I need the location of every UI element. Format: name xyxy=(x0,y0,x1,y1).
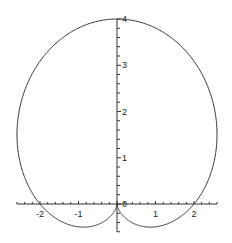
x-tick-label: 1 xyxy=(153,209,158,219)
y-tick-label: 1 xyxy=(122,153,127,163)
x-tick-label: -2 xyxy=(36,209,44,219)
tick-labels: -2-11201234 xyxy=(36,14,197,219)
x-tick-label: -1 xyxy=(74,209,82,219)
y-tick-label: 2 xyxy=(122,107,127,117)
y-tick-label: 0 xyxy=(122,199,127,209)
x-tick-label: 2 xyxy=(191,209,196,219)
y-tick-label: 3 xyxy=(122,60,127,70)
y-tick-label: 4 xyxy=(122,14,127,24)
axes xyxy=(17,19,217,232)
polar-plot: -2-11201234 xyxy=(0,0,232,243)
